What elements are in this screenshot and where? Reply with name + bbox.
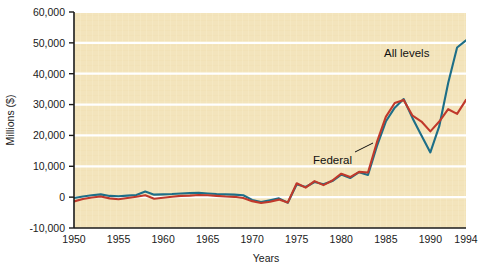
y-axis-title: Millions ($) (4, 95, 16, 146)
y-tick-label: 60,000 (33, 6, 65, 18)
y-tick-label: 40,000 (33, 68, 65, 80)
line-chart: -10,000010,00020,00030,00040,00050,00060… (0, 0, 488, 269)
y-tick-label: 50,000 (33, 37, 65, 49)
x-tick-label: 1985 (374, 233, 398, 245)
y-tick-label: -10,000 (29, 222, 65, 234)
x-axis-title: Years (253, 252, 279, 264)
series-label-federal: Federal (313, 154, 352, 166)
chart-container: -10,000010,00020,00030,00040,00050,00060… (0, 0, 488, 269)
series-label-all-levels: All levels (384, 47, 430, 59)
y-tick-label: 20,000 (33, 129, 65, 141)
y-tick-label: 0 (59, 191, 65, 203)
x-tick-label: 1960 (151, 233, 175, 245)
x-tick-label: 1950 (62, 233, 86, 245)
x-tick-label: 1980 (330, 233, 354, 245)
x-tick-label: 1970 (241, 233, 265, 245)
x-tick-label: 1994 (454, 233, 478, 245)
x-tick-label: 1965 (196, 233, 220, 245)
x-tick-label: 1990 (419, 233, 443, 245)
y-tick-label: 30,000 (33, 98, 65, 110)
y-tick-label: 10,000 (33, 160, 65, 172)
x-tick-label: 1975 (285, 233, 309, 245)
x-tick-label: 1955 (107, 233, 131, 245)
